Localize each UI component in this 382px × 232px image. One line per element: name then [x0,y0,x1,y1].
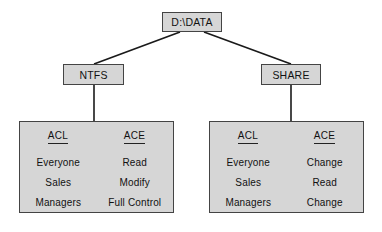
cell-acl: Sales [210,177,287,188]
cell-ace: Modify [97,177,174,188]
cell-ace: Read [287,177,364,188]
panel-share-header-row: ACL ACE [210,130,363,144]
cell-acl: Managers [210,197,287,208]
cell-ace: Change [287,157,364,168]
column-header-ace: ACE [314,130,335,144]
cell-ace: Change [287,197,364,208]
cell-acl: Everyone [20,157,97,168]
table-row: Sales Modify [20,177,173,188]
cell-acl: Everyone [210,157,287,168]
cell-ace: Read [97,157,174,168]
panel-ntfs-header-row: ACL ACE [20,130,173,144]
column-header-acl: ACL [238,130,258,144]
table-row: Everyone Read [20,157,173,168]
connector-root-to-share [204,32,291,64]
column-header-ace: ACE [124,130,145,144]
node-ntfs[interactable]: NTFS [63,64,124,85]
table-row: Managers Full Control [20,197,173,208]
table-row: Everyone Change [210,157,363,168]
node-share[interactable]: SHARE [261,64,321,85]
node-root[interactable]: D:\DATA [162,12,222,32]
cell-acl: Sales [20,177,97,188]
connector-root-to-ntfs [94,32,180,64]
column-header-acl: ACL [48,130,68,144]
cell-ace: Full Control [97,197,174,208]
panel-share-permissions: ACL ACE Everyone Change Sales Read Manag… [209,121,364,213]
cell-acl: Managers [20,197,97,208]
table-row: Sales Read [210,177,363,188]
panel-ntfs-permissions: ACL ACE Everyone Read Sales Modify Manag… [19,121,174,213]
table-row: Managers Change [210,197,363,208]
permissions-diagram: D:\DATA NTFS SHARE ACL ACE Everyone Read… [0,0,382,232]
